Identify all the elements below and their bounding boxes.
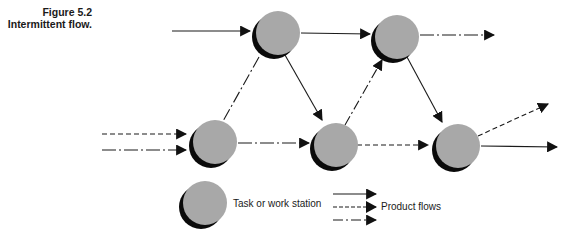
- node-task-bottom-left: [189, 120, 237, 168]
- edge-n5-output-solid: [481, 146, 557, 147]
- node-task-bottom-right: [432, 124, 480, 172]
- edge-n2-n5: [407, 57, 442, 122]
- legend-flow-label: Product flows: [381, 201, 441, 212]
- node-task-top-left: [252, 11, 300, 59]
- edge-n1-n3: [222, 57, 259, 123]
- node-task-top-right: [371, 15, 419, 63]
- legend-node-icon: [179, 181, 227, 229]
- edge-n4-n2: [345, 60, 382, 125]
- edge-n1-n4: [285, 55, 322, 120]
- edge-n1-n2: [301, 33, 370, 34]
- edge-n5-output-dashed: [478, 104, 548, 136]
- legend-node-label: Task or work station: [233, 198, 321, 209]
- node-task-bottom-middle: [310, 123, 358, 171]
